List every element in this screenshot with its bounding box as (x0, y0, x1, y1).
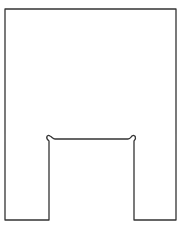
specimen-outline (5, 9, 176, 220)
diagram-canvas (0, 0, 183, 229)
specimen-outline-drawing (0, 0, 183, 229)
